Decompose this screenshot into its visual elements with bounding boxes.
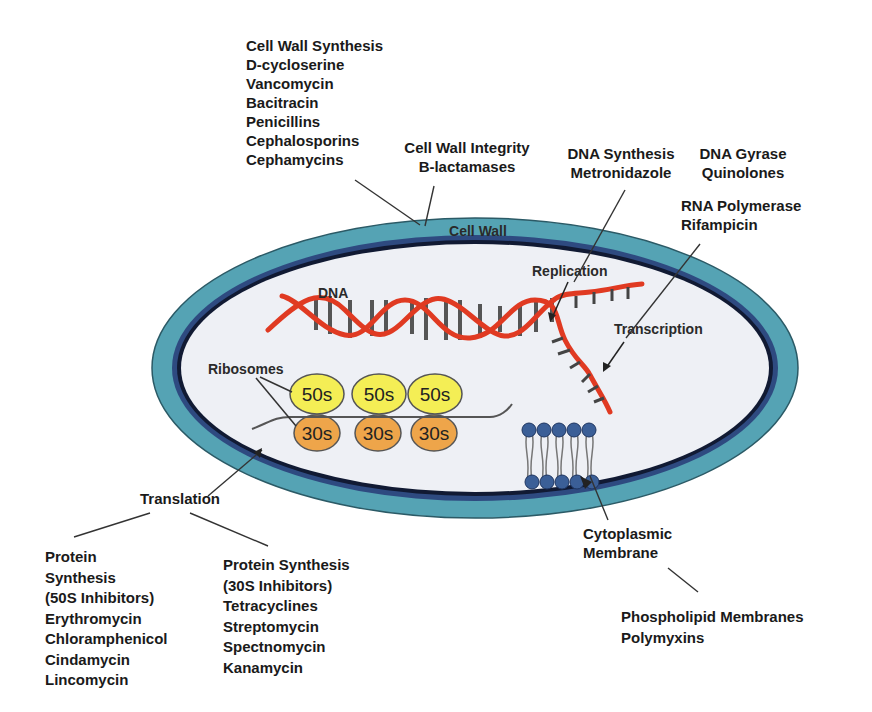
drug-tetracyclines: Tetracyclines	[223, 596, 350, 617]
drug-metronidazole: Metronidazole	[556, 163, 686, 182]
phospholipid-membranes-label: Phospholipid Membranes Polymyxins	[621, 606, 804, 648]
drug-b-lactamases: B-lactamases	[392, 157, 542, 176]
rna-polymerase-title: RNA Polymerase	[681, 196, 801, 215]
drug-bacitracin: Bacitracin	[246, 93, 383, 112]
drug-vancomycin: Vancomycin	[246, 74, 383, 93]
drug-streptomycin: Streptomycin	[223, 617, 350, 638]
drug-spectnomycin: Spectnomycin	[223, 637, 350, 658]
dna-synthesis-label: DNA Synthesis Metronidazole	[556, 144, 686, 182]
ribosome-50s-2: 50s	[364, 384, 395, 405]
drug-polymyxins: Polymyxins	[621, 627, 804, 648]
transcription-label: Transcription	[614, 321, 703, 337]
drug-erythromycin: Erythromycin	[45, 609, 168, 630]
cytoplasmic-membrane-label: Cytoplasmic Membrane	[583, 524, 672, 562]
phospholipid-membranes-title: Phospholipid Membranes	[621, 606, 804, 627]
drug-rifampicin: Rifampicin	[681, 215, 801, 234]
replication-label: Replication	[532, 263, 607, 279]
protein-50s-title-line-1: Protein	[45, 547, 168, 568]
dna-synthesis-title: DNA Synthesis	[556, 144, 686, 163]
drug-penicillins: Penicillins	[246, 112, 383, 131]
cell-wall-integrity-label: Cell Wall Integrity B-lactamases	[392, 138, 542, 176]
cell-wall-synthesis-title: Cell Wall Synthesis	[246, 36, 383, 55]
protein-30s-title-line-1: Protein Synthesis	[223, 555, 350, 576]
translation-title: Translation	[140, 489, 220, 508]
drug-cindamycin: Cindamycin	[45, 650, 168, 671]
ribosomes-label: Ribosomes	[208, 361, 284, 377]
cell-wall-integrity-title: Cell Wall Integrity	[392, 138, 542, 157]
ribosome-50s-3: 50s	[420, 384, 451, 405]
protein-synthesis-50s-label: Protein Synthesis (50S Inhibitors) Eryth…	[45, 547, 168, 691]
cytoplasmic-membrane-line-1: Cytoplasmic	[583, 524, 672, 543]
ribosomes: 50s 50s 50s 30s 30s 30s	[290, 374, 462, 451]
drug-lincomycin: Lincomycin	[45, 670, 168, 691]
rna-polymerase-label: RNA Polymerase Rifampicin	[681, 196, 801, 234]
drug-d-cycloserine: D-cycloserine	[246, 55, 383, 74]
drug-cephalosporins: Cephalosporins	[246, 131, 383, 150]
ribosome-50s-1: 50s	[302, 384, 333, 405]
ribosome-30s-3: 30s	[419, 423, 450, 444]
dna-label: DNA	[318, 285, 348, 301]
cell-wall-synthesis-label: Cell Wall Synthesis D-cycloserine Vancom…	[246, 36, 383, 169]
protein-synthesis-30s-label: Protein Synthesis (30S Inhibitors) Tetra…	[223, 555, 350, 678]
protein-30s-title-line-2: (30S Inhibitors)	[223, 576, 350, 597]
cytoplasmic-membrane-line-2: Membrane	[583, 543, 672, 562]
translation-label: Translation	[140, 489, 220, 508]
ribosome-30s-1: 30s	[302, 423, 333, 444]
protein-50s-title-line-2: Synthesis	[45, 568, 168, 589]
protein-50s-title-line-3: (50S Inhibitors)	[45, 588, 168, 609]
dna-gyrase-title: DNA Gyrase	[690, 144, 796, 163]
drug-kanamycin: Kanamycin	[223, 658, 350, 679]
dna-gyrase-label: DNA Gyrase Quinolones	[690, 144, 796, 182]
drug-cephamycins: Cephamycins	[246, 150, 383, 169]
drug-chloramphenicol: Chloramphenicol	[45, 629, 168, 650]
cell-wall-label: Cell Wall	[449, 223, 507, 239]
ribosome-30s-2: 30s	[363, 423, 394, 444]
drug-quinolones: Quinolones	[690, 163, 796, 182]
